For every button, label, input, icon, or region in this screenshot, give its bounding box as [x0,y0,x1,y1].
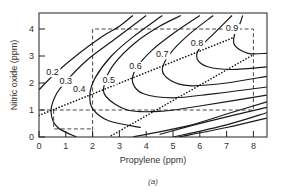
x-axis-label: Propylene (ppm) [120,155,187,165]
y-tick-label: 2 [29,78,34,88]
y-tick-label: 1 [29,105,34,115]
contour-line-0.4 [90,16,163,128]
x-tick-label: 5 [170,141,175,151]
contour-label: 0.4 [73,84,86,94]
y-tick-label: 3 [29,51,34,61]
contour-label: 0.2 [46,67,59,77]
dashed-region-inner-rectangle [54,110,93,129]
contour-line-0.9 [233,16,266,54]
x-tick-label: 3 [117,141,122,151]
y-tick-label: 0 [29,132,34,142]
contour-line-0.2 [39,16,133,90]
y-axis-label: Nitric oxide (ppm) [9,40,19,111]
y-axis-ticks: 01234 [29,24,45,142]
contour-label: 0.8 [191,38,204,48]
contour-line-0.7 [162,16,266,86]
contour-label: 0.6 [129,61,142,71]
y-tick-label: 4 [29,24,34,34]
contour-label: 0.5 [102,75,115,85]
x-tick-label: 0 [36,141,41,151]
figure-caption: (a) [148,177,158,186]
x-tick-label: 8 [251,141,256,151]
x-tick-label: 2 [90,141,95,151]
x-tick-label: 7 [224,141,229,151]
x-tick-label: 6 [197,141,202,151]
contour-label: 0.7 [156,49,169,59]
x-tick-label: 4 [144,141,149,151]
contour-label: 0.9 [226,23,239,33]
plot-area: 0.20.30.40.50.60.70.80.9 [39,16,267,138]
x-tick-label: 1 [63,141,68,151]
contour-label: 0.3 [60,76,73,86]
contour-chart: 0.20.30.40.50.60.70.80.9 012345678 01234… [0,0,285,193]
